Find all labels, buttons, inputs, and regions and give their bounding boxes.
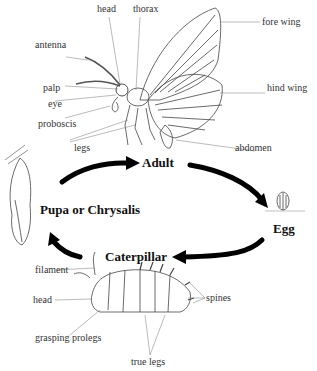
- label-proboscis: proboscis: [38, 119, 76, 129]
- stage-adult: Adult: [142, 156, 174, 169]
- label-fore-wing: fore wing: [262, 17, 301, 27]
- arrow-pupa-to-adult: [62, 163, 128, 182]
- butterfly-thorax: [127, 88, 149, 106]
- arrow-adult-to-egg: [190, 165, 262, 200]
- label-eye: eye: [48, 99, 62, 109]
- label-filament: filament: [35, 265, 68, 275]
- label-thorax: thorax: [133, 4, 159, 14]
- label-palp: palp: [43, 83, 60, 93]
- stage-egg: Egg: [273, 222, 295, 235]
- life-cycle-artwork: [0, 0, 317, 371]
- caterpillar-body: [91, 270, 190, 312]
- fore-wing-shape: [140, 8, 221, 100]
- arrow-egg-to-caterpillar: [184, 240, 262, 257]
- label-spines: spines: [206, 293, 231, 303]
- label-abdomen: abdomen: [235, 143, 272, 153]
- label-hind-wing: hind wing: [267, 83, 307, 93]
- stage-pupa: Pupa or Chrysalis: [40, 203, 140, 216]
- label-caterpillar-head: head: [33, 295, 52, 305]
- arrow-caterpillar-to-pupa: [54, 242, 80, 257]
- stage-caterpillar: Caterpillar: [105, 250, 167, 263]
- label-antenna: antenna: [35, 40, 66, 50]
- label-grasping-prolegs: grasping prolegs: [35, 333, 101, 343]
- label-head: head: [97, 4, 116, 14]
- label-true-legs: true legs: [131, 357, 165, 367]
- label-legs: legs: [74, 143, 90, 153]
